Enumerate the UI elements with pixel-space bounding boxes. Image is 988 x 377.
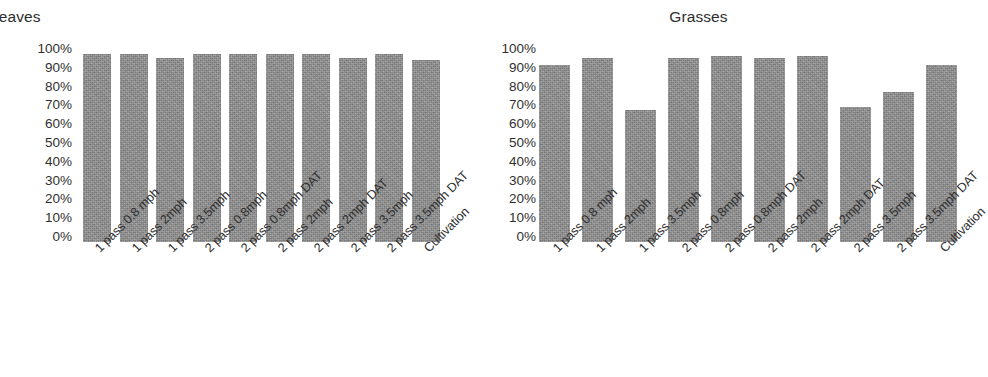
- y-axis-tick-broadleaves: 70%: [14, 98, 72, 112]
- y-axis-grasses: 100%90%80%70%60%50%40%30%20%10%0%: [478, 48, 536, 250]
- y-axis-tick-broadleaves: 80%: [14, 80, 72, 94]
- y-axis-tick-broadleaves: 40%: [14, 155, 72, 169]
- y-axis-tick-grasses: 20%: [478, 192, 536, 206]
- y-axis-tick-broadleaves: 100%: [14, 42, 72, 56]
- y-axis-tick-grasses: 0%: [478, 230, 536, 244]
- chart-title-grasses: Grasses: [466, 8, 931, 26]
- y-axis-tick-grasses: 70%: [478, 98, 536, 112]
- y-axis-tick-grasses: 80%: [478, 80, 536, 94]
- y-axis-tick-grasses: 90%: [478, 61, 536, 75]
- y-axis-tick-broadleaves: 0%: [14, 230, 72, 244]
- bar-broadleaves-0: [83, 54, 111, 242]
- y-axis-tick-broadleaves: 60%: [14, 117, 72, 131]
- x-axis-labels-broadleaves: 1 pass 0.8 mph1 pass 2mph1 pass 3.5mph2 …: [0, 246, 466, 377]
- y-axis-tick-broadleaves: 30%: [14, 174, 72, 188]
- y-axis-tick-broadleaves: 50%: [14, 136, 72, 150]
- chart-title-broadleaves: Broadleaves: [0, 8, 230, 26]
- x-axis-labels-grasses: 1 pass 0.8 mph1 pass 2mph1 pass 3.5mph2 …: [466, 246, 931, 377]
- panel-grasses: Grasses 100%90%80%70%60%50%40%30%20%10%0…: [466, 0, 931, 377]
- y-axis-tick-broadleaves: 10%: [14, 211, 72, 225]
- y-axis-broadleaves: 100%90%80%70%60%50%40%30%20%10%0%: [14, 48, 72, 250]
- y-axis-tick-grasses: 30%: [478, 174, 536, 188]
- y-axis-tick-broadleaves: 20%: [14, 192, 72, 206]
- y-axis-tick-grasses: 60%: [478, 117, 536, 131]
- y-axis-tick-grasses: 40%: [478, 155, 536, 169]
- y-axis-tick-broadleaves: 90%: [14, 61, 72, 75]
- y-axis-tick-grasses: 100%: [478, 42, 536, 56]
- y-axis-tick-grasses: 50%: [478, 136, 536, 150]
- bar-grasses-0: [539, 65, 570, 242]
- y-axis-tick-grasses: 10%: [478, 211, 536, 225]
- panel-broadleaves: Broadleaves 100%90%80%70%60%50%40%30%20%…: [0, 0, 466, 377]
